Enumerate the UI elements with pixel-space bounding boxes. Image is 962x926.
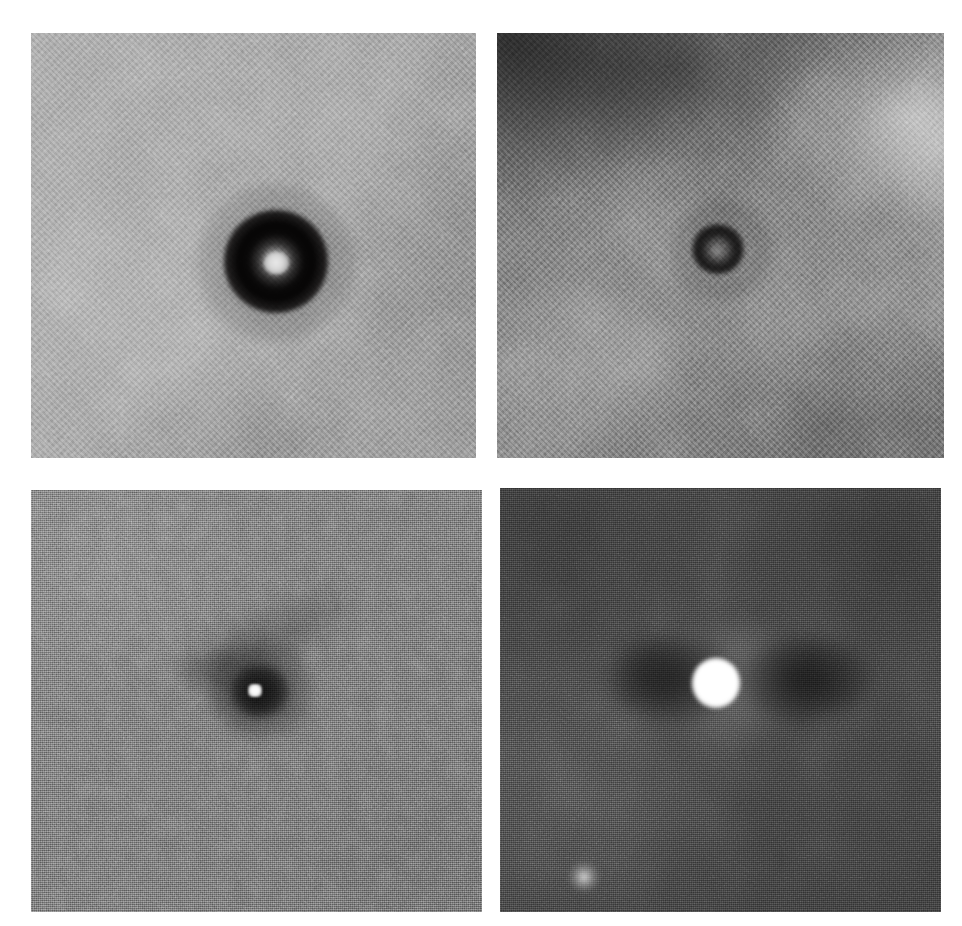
noise-texture-icon [497,33,944,458]
bottom-left-image-panel[interactable] [31,490,482,912]
top-left-image-panel[interactable] [31,33,476,458]
coarse-grain-overlay [31,33,476,458]
mottle-texture-icon [500,488,941,912]
faint-secondary-source [568,862,600,892]
dark-lobe-left [610,636,740,722]
fine-grain-overlay [31,490,482,912]
noise-texture-icon [500,488,941,912]
bright-saturated-core [692,658,740,708]
figure-root [0,0,962,926]
fine-grain-overlay [500,488,941,912]
mottle-texture-icon [31,490,482,912]
noise-texture-icon [31,33,476,458]
dark-lobe-right [740,638,870,722]
dark-halo [196,183,356,343]
mottle-texture-icon [497,33,944,458]
dark-annulus [692,224,744,274]
bottom-right-image-panel[interactable] [500,488,941,912]
top-right-image-panel[interactable] [497,33,944,458]
faint-core [710,245,724,257]
dark-annulus [224,210,328,313]
bright-halo [650,618,810,748]
panel-tr-noise-layer [497,33,944,458]
mottle-texture-icon [31,33,476,458]
bright-point-source [248,684,262,697]
diagonal-dark-streak [169,569,366,706]
panel-br-noise-layer [500,488,941,912]
panel-tl-noise-layer [31,33,476,458]
noise-texture-icon [31,490,482,912]
panel-bl-noise-layer [31,490,482,912]
dark-halo [206,642,316,738]
bright-core [264,252,289,274]
coarse-grain-overlay [497,33,944,458]
dark-halo-inner [231,665,289,717]
dark-halo [669,201,773,301]
